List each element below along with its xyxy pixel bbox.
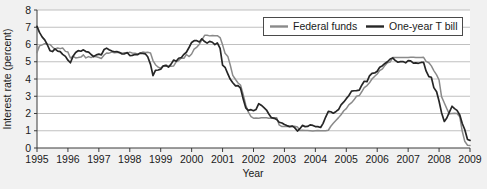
- y-tick-label: 6: [25, 38, 31, 50]
- x-tick-label: 1996: [56, 153, 80, 165]
- x-tick-label: 1998: [118, 153, 142, 165]
- x-tick-label: 1995: [25, 153, 49, 165]
- x-axis-title: Year: [242, 167, 264, 179]
- y-tick-label: 7: [25, 21, 31, 33]
- chart-figure: 012345678 199519961997199819992000200120…: [0, 0, 487, 189]
- y-axis-title: Interest rate (percent): [1, 29, 13, 130]
- x-tick-label: 2001: [211, 153, 235, 165]
- y-tick-label: 3: [25, 90, 31, 102]
- x-tick-label: 1999: [149, 153, 173, 165]
- y-tick-label: 2: [25, 107, 31, 119]
- x-tick-label: 2006: [366, 153, 390, 165]
- legend-label-federal-funds: Federal funds: [293, 20, 357, 32]
- x-tick-label: 2005: [335, 153, 359, 165]
- y-tick-label: 0: [25, 142, 31, 154]
- y-tick-label: 5: [25, 55, 31, 67]
- legend-label-one-year-t-bill: One-year T bill: [389, 20, 457, 32]
- x-tick-label: 2009: [458, 153, 482, 165]
- x-tick-label: 2002: [242, 153, 266, 165]
- interest-rate-line-chart: 012345678 199519961997199819992000200120…: [0, 0, 487, 189]
- chart-legend: Federal funds One-year T bill: [264, 18, 463, 36]
- y-tick-label: 4: [25, 73, 31, 85]
- y-tick-label: 8: [25, 4, 31, 16]
- x-tick-label: 2000: [180, 153, 204, 165]
- y-tick-label: 1: [25, 124, 31, 136]
- x-tick-label: 2008: [427, 153, 451, 165]
- x-tick-label: 2004: [304, 153, 328, 165]
- x-tick-label: 2003: [273, 153, 297, 165]
- x-tick-label: 1997: [87, 153, 111, 165]
- x-tick-label: 2007: [396, 153, 420, 165]
